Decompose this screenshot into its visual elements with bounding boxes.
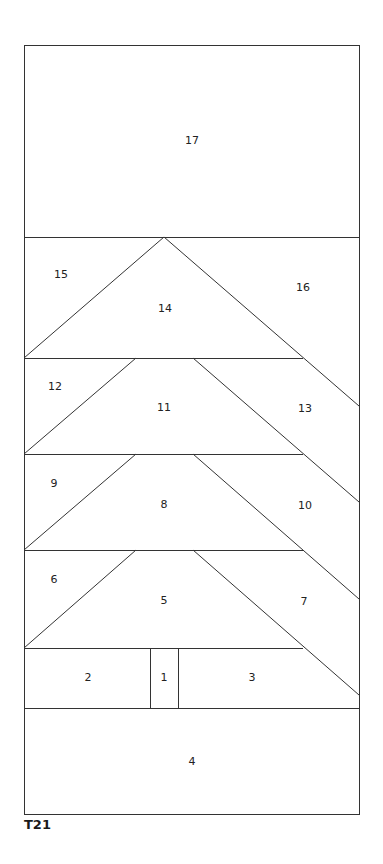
piece-label-2: 2 [85,671,92,684]
piece-label-11: 11 [157,401,171,414]
piece-label-3: 3 [249,671,256,684]
piece-label-17: 17 [185,134,199,147]
tier4-right-edge [193,550,359,695]
piece-label-8: 8 [161,498,168,511]
tier1-right-edge [164,237,359,406]
piece-label-9: 9 [51,477,58,490]
piece-labels: 1 2 3 4 5 6 7 8 9 10 11 12 13 14 15 16 1… [48,134,312,768]
tier2-right-edge [193,358,359,502]
piece-label-13: 13 [298,402,312,415]
piece-label-7: 7 [301,595,308,608]
pattern-title: T21 [24,817,51,832]
tier3-right-edge [193,454,359,599]
tier1-left-edge [24,237,164,358]
piece-label-5: 5 [161,594,168,607]
piece-label-16: 16 [296,281,310,294]
piece-label-10: 10 [298,499,312,512]
quilt-pattern-diagram: 1 2 3 4 5 6 7 8 9 10 11 12 13 14 15 16 1… [0,0,383,864]
tier3-left-edge [24,454,136,550]
pattern-lines [24,46,360,815]
tier2-left-edge [24,358,136,454]
tier4-left-edge [24,550,136,648]
piece-label-15: 15 [54,268,68,281]
piece-label-12: 12 [48,380,62,393]
piece-label-14: 14 [158,302,172,315]
piece-label-1: 1 [161,671,168,684]
piece-label-4: 4 [189,755,196,768]
outer-frame [25,46,360,815]
piece-label-6: 6 [51,573,58,586]
